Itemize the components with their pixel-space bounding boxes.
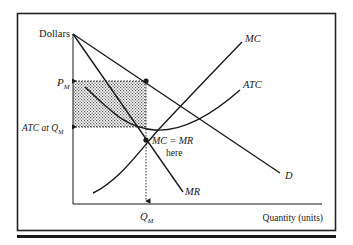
atc-label: ATC: [242, 79, 263, 90]
price-label: PM: [56, 76, 71, 91]
profit-area: [73, 81, 146, 127]
monopoly-diagram: Dollars Quantity (units) MC ATC D MR PM …: [0, 0, 353, 245]
figure-frame: [18, 14, 336, 231]
atc-at-q-label: ATC at QM: [21, 123, 64, 135]
d-label: D: [284, 170, 293, 181]
price-point: [143, 78, 148, 83]
here-annotation: here: [166, 148, 182, 158]
x-axis-label: Quantity (units): [263, 213, 323, 224]
mc-mr-point: [143, 137, 148, 142]
bottom-rule: [17, 235, 336, 238]
mc-equals-mr-annotation: MC = MR: [151, 135, 193, 146]
mr-label: MR: [184, 186, 201, 197]
mc-label: MC: [244, 33, 262, 44]
y-axis-label: Dollars: [39, 28, 70, 39]
quantity-label: QM: [140, 211, 155, 225]
